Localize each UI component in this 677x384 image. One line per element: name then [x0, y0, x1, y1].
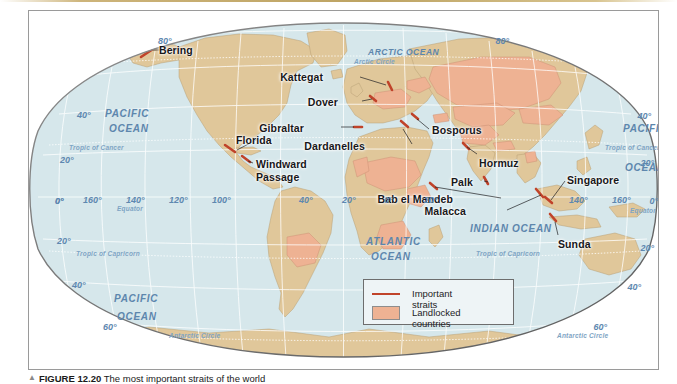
reference-line-label-equator-4: Equator [630, 208, 656, 215]
reference-line-label-tropic-of-cancer-2: Tropic of Cancer [605, 145, 658, 152]
strait-label-dover: Dover [308, 97, 338, 108]
strait-label-sunda: Sunda [558, 239, 591, 250]
reference-line-label-equator-3: Equator [117, 206, 143, 213]
reference-line-label-antarctic-circle-8: Antarctic Circle [557, 333, 608, 340]
world-map: BeringKattegatDoverGibraltarDardanellesB… [29, 11, 658, 369]
graticule-label-equator-6: 20° [342, 196, 356, 205]
graticule-label-right-3: 0° [649, 197, 658, 206]
graticule-label-right-6: 60° [593, 323, 607, 332]
ocean-label-pacific-6: PACIFIC [114, 294, 158, 304]
ocean-label-atlantic-4: ATLANTIC [366, 237, 421, 247]
graticule-label-left-6: 60° [103, 323, 117, 332]
strait-label-bosporus: Bosporus [432, 125, 482, 136]
strait-label-singapore: Singapore [567, 175, 619, 186]
graticule-label-equator-10: 160° [612, 196, 631, 205]
figure-caption: ▲FIGURE 12.20 The most important straits… [28, 373, 659, 384]
reference-line-label-tropic-of-capricorn-5: Tropic of Capricorn [76, 251, 140, 258]
graticule-label-equator-9: 140° [569, 196, 588, 205]
graticule-label-left-1: 40° [77, 111, 91, 120]
reference-line-label-tropic-of-capricorn-6: Tropic of Capricorn [476, 251, 540, 258]
graticule-label-left-4: 20° [57, 237, 71, 246]
graticule-label-right-0: 80° [495, 37, 509, 46]
strait-label-bering: Bering [159, 45, 193, 56]
graticule-label-left-2: 20° [60, 156, 74, 165]
strait-label-florida: Florida [236, 135, 272, 146]
strait-label-windward-passage-line2: Passage [256, 172, 299, 183]
graticule-label-right-4: 20° [640, 244, 654, 253]
caption-text: The most important straits of the world [104, 373, 266, 384]
graticule-label-equator-3: 120° [169, 196, 188, 205]
ocean-label-arctic-ocean-9: ARCTIC OCEAN [368, 48, 439, 57]
graticule-label-right-2: 20° [640, 159, 654, 168]
strait-label-kattegat: Kattegat [280, 72, 323, 83]
graticule-label-left-5: 40° [72, 281, 86, 290]
strait-label-malacca: Malacca [424, 206, 466, 217]
caption-marker-icon: ▲ [28, 373, 36, 382]
graticule-label-equator-5: 40° [299, 196, 313, 205]
graticule-label-equator-2: 140° [126, 196, 145, 205]
caption-number: FIGURE 12.20 [39, 373, 101, 384]
reference-line-label-tropic-of-cancer-1: Tropic of Cancer [69, 145, 124, 152]
legend-swatch-line-icon [372, 293, 400, 295]
ocean-label-indian-ocean-8: INDIAN OCEAN [470, 224, 552, 234]
graticule-label-equator-0: 0° [55, 197, 64, 206]
legend-label-landlocked: Landlocked countries [412, 307, 461, 329]
graticule-label-equator-1: 160° [83, 196, 102, 205]
ocean-label-ocean-1: OCEAN [109, 124, 149, 134]
strait-label-palk: Palk [451, 177, 473, 188]
ocean-label-pacific-0: PACIFIC [105, 109, 149, 119]
graticule-label-left-0: 80° [158, 37, 172, 46]
reference-line-label-antarctic-circle-7: Antarctic Circle [169, 333, 220, 340]
map-legend: Important straits Landlocked countries [363, 279, 514, 325]
map-plate: BeringKattegatDoverGibraltarDardanellesB… [28, 10, 659, 370]
figure-page: BeringKattegatDoverGibraltarDardanellesB… [0, 0, 677, 384]
strait-label-gibraltar: Gibraltar [259, 123, 304, 134]
strait-label-hormuz: Hormuz [479, 158, 519, 169]
ocean-label-pacific-2: PACIFIC [623, 124, 658, 134]
legend-swatch-box-icon [372, 306, 400, 320]
strait-label-dardanelles: Dardanelles [304, 141, 365, 152]
graticule-label-equator-8: 20° [424, 196, 438, 205]
strait-label-windward-passage-line1: Windward [256, 159, 307, 170]
graticule-label-right-5: 40° [627, 283, 641, 292]
page-top-rule [0, 0, 677, 2]
ocean-label-ocean-5: OCEAN [371, 252, 411, 262]
graticule-label-right-1: 40° [637, 112, 651, 121]
graticule-label-equator-4: 100° [212, 196, 231, 205]
ocean-label-ocean-7: OCEAN [117, 312, 157, 322]
graticule-label-equator-7: 0° [384, 196, 393, 205]
reference-line-label-arctic-circle-0: Arctic Circle [354, 59, 395, 66]
